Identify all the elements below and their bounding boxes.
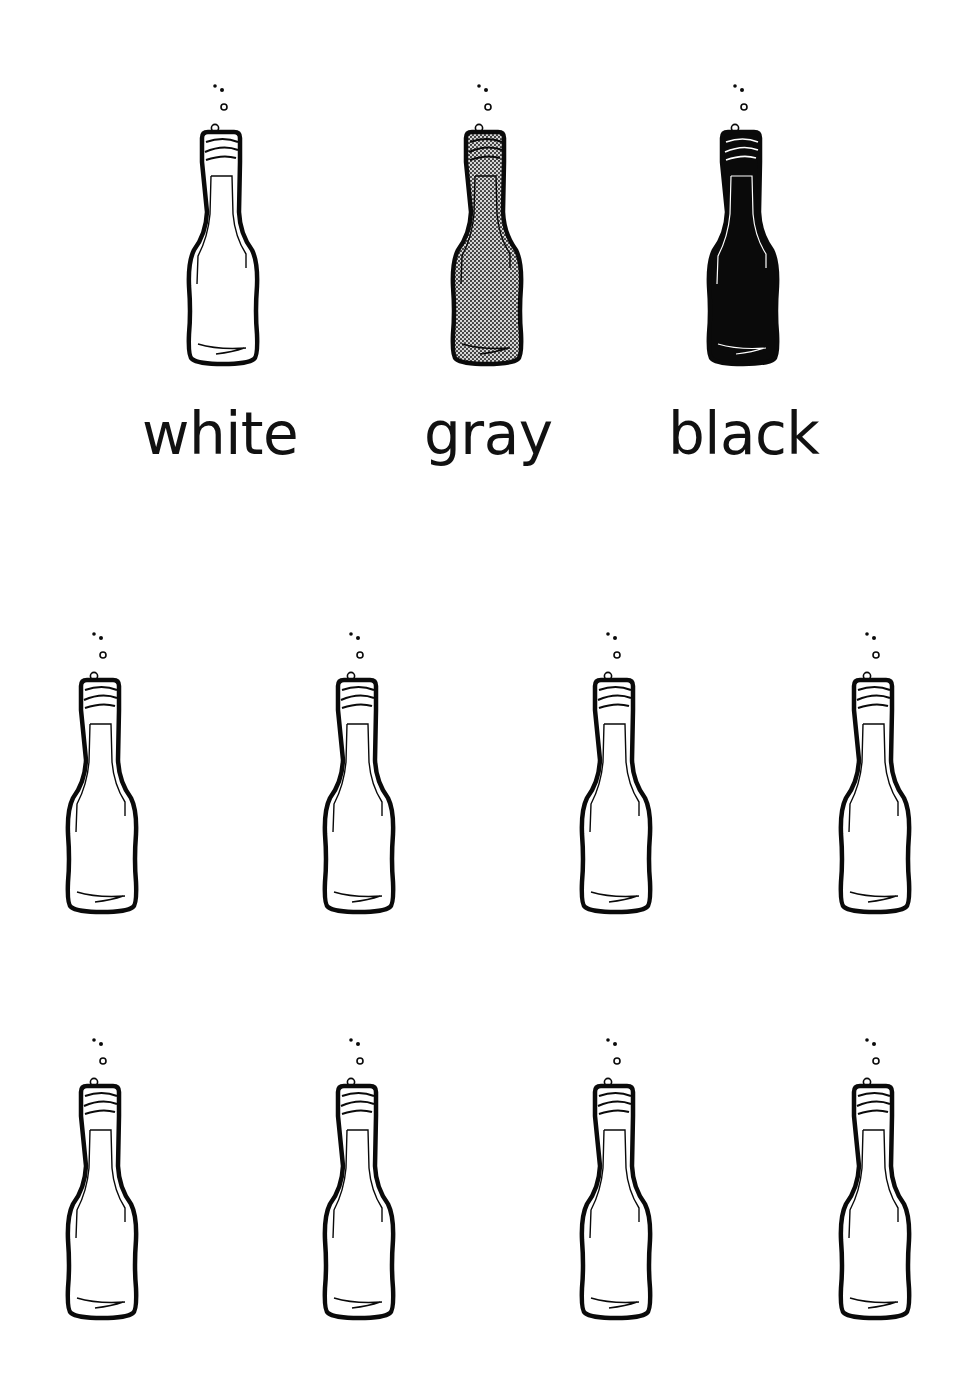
bottle-outline-icon (314, 620, 404, 920)
grid-bottle-r1-c3[interactable] (571, 620, 661, 920)
label-white: white (142, 405, 298, 463)
grid-bottle-r2-c2[interactable] (314, 1026, 404, 1326)
bottle-outline-icon (830, 620, 920, 920)
grid-bottle-r1-c4[interactable] (830, 620, 920, 920)
grid-bottle-r2-c4[interactable] (830, 1026, 920, 1326)
grid-bottle-r2-c1[interactable] (57, 1026, 147, 1326)
label-gray: gray (424, 405, 553, 463)
bottle-outline-icon (571, 620, 661, 920)
label-black: black (668, 405, 819, 463)
grid-bottle-r1-c2[interactable] (314, 620, 404, 920)
bottle-white-icon (178, 72, 268, 372)
bottle-black-icon (698, 72, 788, 372)
bottle-gray (442, 72, 532, 372)
bottle-white (178, 72, 268, 372)
bottle-gray-icon (442, 72, 532, 372)
bottle-outline-icon (830, 1026, 920, 1326)
grid-bottle-r1-c1[interactable] (57, 620, 147, 920)
bottle-black (698, 72, 788, 372)
bottle-outline-icon (571, 1026, 661, 1326)
bottle-outline-icon (314, 1026, 404, 1326)
grid-bottle-r2-c3[interactable] (571, 1026, 661, 1326)
bottle-outline-icon (57, 1026, 147, 1326)
bottle-outline-icon (57, 620, 147, 920)
